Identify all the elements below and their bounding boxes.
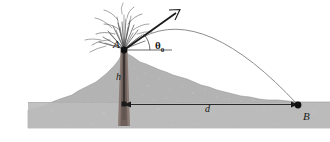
volcano-projectile-diagram (0, 0, 330, 142)
point-b-marker (295, 102, 302, 109)
label-point-a: A (113, 39, 120, 50)
ground-band (28, 102, 330, 128)
label-distance-d: d (205, 104, 210, 114)
label-height-h: h (116, 72, 121, 82)
label-launch-angle: θ0 (155, 40, 164, 54)
point-a-marker (121, 47, 128, 54)
label-point-b: B (303, 111, 310, 122)
theta-subscript: 0 (161, 46, 165, 54)
